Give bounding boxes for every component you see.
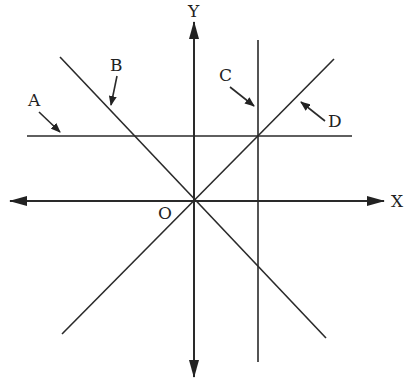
line-b-label: B — [110, 55, 123, 75]
line-d-label: D — [328, 111, 342, 131]
line-c-label: C — [219, 65, 232, 85]
line-d: D — [62, 59, 342, 334]
x-axis-label: X — [391, 191, 404, 211]
x-axis: X — [10, 191, 404, 211]
y-axis: Y — [187, 1, 200, 377]
coordinate-diagram: X Y A B C D O — [0, 0, 412, 384]
line-a-label: A — [27, 90, 41, 110]
line-a: A — [27, 90, 352, 136]
origin-label: O — [158, 203, 172, 223]
y-axis-label: Y — [187, 1, 200, 21]
